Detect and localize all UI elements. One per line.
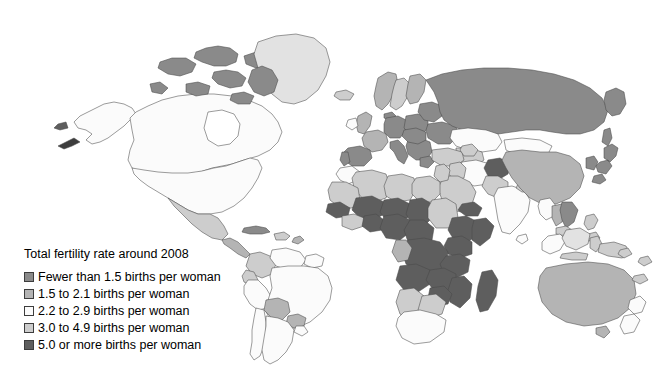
- legend-label-3-0-to-4-9: 3.0 to 4.9 births per woman: [38, 321, 189, 335]
- legend-swatch-3-0-to-4-9: [24, 323, 34, 333]
- legend-item-1-5-to-2-1: 1.5 to 2.1 births per woman: [24, 285, 240, 302]
- legend-item-5-0-or-more: 5.0 or more births per woman: [24, 336, 240, 353]
- legend-item-2-2-to-2-9: 2.2 to 2.9 births per woman: [24, 302, 240, 319]
- legend-swatch-under-1-5: [24, 272, 34, 282]
- map-legend: Total fertility rate around 2008 Fewer t…: [24, 247, 240, 353]
- legend-swatch-5-0-or-more: [24, 340, 34, 350]
- region-egypt: [412, 176, 440, 202]
- region-libya: [384, 174, 416, 202]
- fertility-rate-world-map-figure: Total fertility rate around 2008 Fewer t…: [0, 0, 660, 372]
- legend-title: Total fertility rate around 2008: [24, 247, 240, 262]
- legend-label-2-2-to-2-9: 2.2 to 2.9 births per woman: [38, 304, 189, 318]
- legend-swatch-1-5-to-2-1: [24, 289, 34, 299]
- legend-label-5-0-or-more: 5.0 or more births per woman: [38, 338, 201, 352]
- legend-label-1-5-to-2-1: 1.5 to 2.1 births per woman: [38, 287, 189, 301]
- legend-swatch-2-2-to-2-9: [24, 306, 34, 316]
- legend-item-3-0-to-4-9: 3.0 to 4.9 births per woman: [24, 319, 240, 336]
- legend-item-under-1-5: Fewer than 1.5 births per woman: [24, 268, 240, 285]
- legend-label-under-1-5: Fewer than 1.5 births per woman: [38, 270, 221, 284]
